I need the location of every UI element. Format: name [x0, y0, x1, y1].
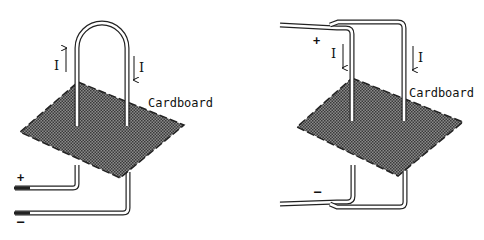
left-current-label-1: I: [54, 58, 59, 73]
left-minus-terminal: –: [17, 215, 25, 229]
right-current-label-1: I: [331, 46, 336, 61]
left-plus-terminal: +: [17, 171, 24, 185]
left-current-label-2: I: [139, 60, 144, 75]
diagram-canvas: I I Cardboard + – I: [0, 0, 484, 240]
right-cardboard-label: Cardboard: [409, 86, 474, 100]
right-current-down-arrow-1: I: [331, 44, 343, 68]
right-minus-terminal: –: [314, 185, 322, 199]
right-plus-terminal: +: [313, 34, 320, 48]
right-current-down-arrow-2: I: [413, 46, 423, 70]
right-diagram: I I Cardboard + –: [280, 22, 474, 207]
left-current-down-arrow: I: [134, 56, 144, 80]
left-diagram: I I Cardboard + –: [14, 23, 213, 229]
left-cardboard-label: Cardboard: [148, 96, 213, 110]
right-current-label-2: I: [418, 50, 423, 65]
right-lower-wires: [280, 165, 405, 207]
left-current-up-arrow: I: [54, 48, 66, 73]
